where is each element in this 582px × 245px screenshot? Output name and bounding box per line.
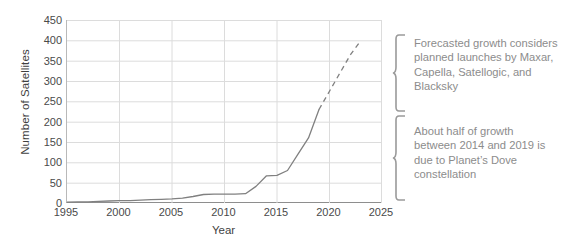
- forecast-line: [319, 40, 361, 109]
- x-tick-2015: 2015: [254, 206, 298, 218]
- annotation-forecast-text: Forecasted growth considers planned laun…: [414, 36, 582, 94]
- y-tick-250: 250: [22, 95, 62, 107]
- chart-page: Number of Satellites 450 400 350 300 250…: [0, 0, 582, 245]
- y-tick-300: 300: [22, 75, 62, 87]
- vertical-gridlines: [120, 20, 382, 203]
- annotation-forecast-line3: Capella, Satellogic, and: [414, 65, 582, 79]
- x-tick-2005: 2005: [149, 206, 193, 218]
- annotation-dove-text: About half of growth between 2014 and 20…: [414, 124, 582, 182]
- y-tick-350: 350: [22, 55, 62, 67]
- plot-area: [66, 20, 381, 203]
- y-tick-450: 450: [22, 14, 62, 26]
- x-axis-title: Year: [66, 224, 381, 236]
- x-tick-2010: 2010: [202, 206, 246, 218]
- satellite-growth-chart: Number of Satellites 450 400 350 300 250…: [0, 0, 392, 245]
- y-tick-100: 100: [22, 156, 62, 168]
- historical-line: [67, 110, 319, 203]
- curly-brace-icon: [392, 114, 410, 202]
- x-tick-2025: 2025: [359, 206, 403, 218]
- y-tick-50: 50: [22, 177, 62, 189]
- y-tick-150: 150: [22, 136, 62, 148]
- annotation-dove-line3: due to Planet’s Dove: [414, 153, 582, 167]
- annotation-dove-line2: between 2014 and 2019 is: [414, 138, 582, 152]
- annotation-forecast-line1: Forecasted growth considers: [414, 36, 582, 50]
- annotation-dove-line4: constellation: [414, 167, 582, 181]
- x-tick-2000: 2000: [97, 206, 141, 218]
- x-tick-2020: 2020: [307, 206, 351, 218]
- annotation-forecast-line2: planned launches by Maxar,: [414, 50, 582, 64]
- x-tick-1995: 1995: [44, 206, 88, 218]
- annotation-dove-line1: About half of growth: [414, 124, 582, 138]
- y-tick-200: 200: [22, 116, 62, 128]
- annotation-forecast-line4: Blacksky: [414, 79, 582, 93]
- plot-svg: [67, 20, 382, 203]
- y-tick-400: 400: [22, 34, 62, 46]
- curly-brace-icon: [392, 33, 410, 113]
